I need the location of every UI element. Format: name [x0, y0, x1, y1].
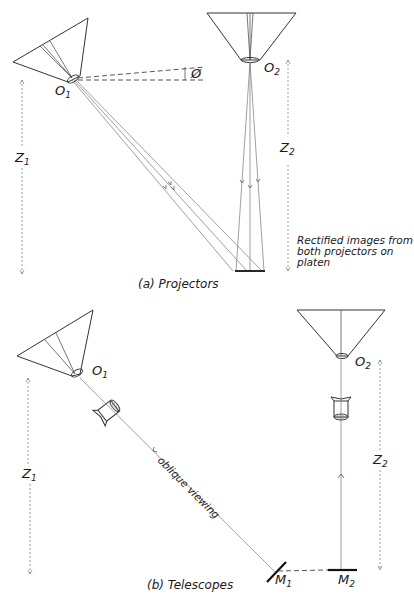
ray: [76, 80, 262, 271]
z1-dimension: Z1: [14, 80, 30, 274]
telescope-2-label: O2: [355, 354, 371, 371]
telescope-1-inner-line: [45, 340, 75, 374]
stereo-plotter-diagram: Ø O1 O2: [0, 0, 414, 602]
telescope-1-cone: [17, 310, 93, 376]
projector-1-inner-line: [43, 45, 72, 78]
ray: [236, 62, 250, 271]
telescope-1-label: O1: [92, 363, 108, 380]
z2-label: Z2: [279, 140, 295, 157]
ray: [72, 80, 233, 271]
z2-label-b: Z2: [372, 452, 388, 469]
projector-2-inner-line: [250, 13, 253, 60]
ray-arrow: [153, 447, 157, 452]
panel-a-projectors: Ø O1 O2: [13, 13, 413, 291]
mirror-1-label: M1: [275, 572, 292, 589]
telescope-1-inner-line: [56, 333, 75, 374]
eyepiece-1-lens: [108, 398, 121, 413]
telescope-2: [297, 310, 385, 359]
projector-2: [207, 13, 296, 63]
angle-phi-label: Ø: [190, 66, 202, 81]
panel-b-telescopes: O1 oblique viewing O2 M1: [17, 310, 388, 592]
mirror-2-label: M2: [338, 572, 355, 589]
projector-2-rays: [236, 62, 264, 271]
oblique-viewing-label: oblique viewing: [156, 454, 223, 521]
caption-b: (b) Telescopes: [147, 578, 233, 592]
ray: [74, 80, 247, 271]
tilt-angle: Ø: [78, 66, 205, 81]
mirror-link-line: [278, 570, 328, 571]
projector-1: [13, 18, 88, 85]
projector-2-label: O2: [264, 60, 280, 77]
z2-dimension: Z2: [279, 60, 295, 271]
z1-dimension-b: Z1: [21, 378, 37, 574]
projector-1-rays: [72, 80, 262, 271]
projector-2-inner-line: [247, 13, 250, 60]
z1-label: Z1: [14, 150, 30, 167]
z1-label-b: Z1: [21, 466, 37, 483]
ray-arrow: [171, 186, 174, 190]
projector-1-cone: [13, 18, 88, 82]
eyepiece-1: [93, 396, 123, 426]
platen-note: Rectified images from both projectors on…: [296, 234, 413, 268]
caption-a: (a) Projectors: [138, 277, 219, 291]
z2-dimension-b: Z2: [372, 360, 388, 570]
tilt-axis-line: [78, 67, 205, 78]
eyepiece-1-cup: [93, 408, 108, 426]
projector-1-label: O1: [55, 83, 71, 100]
telescope-1: [17, 310, 93, 379]
note-line-3: platen: [296, 256, 330, 268]
ray: [250, 62, 264, 271]
